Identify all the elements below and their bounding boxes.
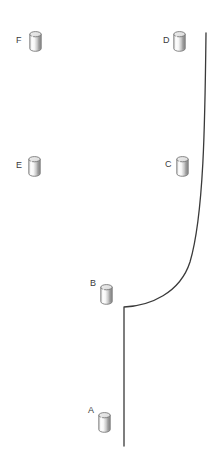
marker-label-b: B [90, 279, 96, 288]
cylinder-marker-a [98, 412, 111, 433]
marker-label-e: E [16, 161, 22, 170]
cylinder-marker-f [29, 31, 42, 52]
cylinder-marker-e [28, 156, 41, 177]
cylinder-marker-c [176, 156, 189, 177]
marker-label-d: D [163, 36, 170, 45]
marker-label-a: A [88, 406, 94, 415]
marker-label-c: C [165, 160, 172, 169]
curve-svg [0, 0, 215, 457]
cylinder-marker-b [100, 284, 113, 305]
curve-path [124, 33, 206, 446]
diagram-canvas: ABCDEF [0, 0, 215, 457]
cylinder-marker-d [173, 31, 186, 52]
marker-label-f: F [16, 36, 22, 45]
